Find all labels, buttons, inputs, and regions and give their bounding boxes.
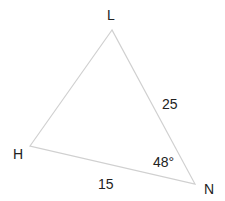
angle-label-n: 48°: [153, 155, 174, 169]
side-label-ln: 25: [162, 97, 178, 111]
triangle-shape: [0, 0, 225, 201]
triangle-diagram: L H N 25 15 48°: [0, 0, 225, 201]
vertex-label-l: L: [107, 8, 115, 22]
side-label-hn: 15: [98, 177, 114, 191]
vertex-label-n: N: [204, 182, 214, 196]
vertex-label-h: H: [13, 147, 23, 161]
